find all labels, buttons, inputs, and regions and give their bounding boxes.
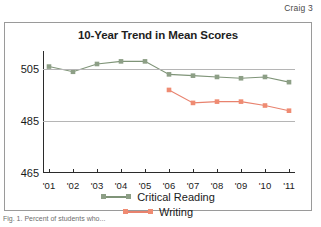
legend-label-critical-reading: Critical Reading [137, 191, 215, 203]
x-tick-label-06: '06 [163, 180, 175, 191]
x-tick-label-02: '02 [67, 180, 79, 191]
page-top-edge [0, 0, 321, 1]
page-header-running-head: Craig 3 [284, 3, 313, 13]
data-point-critical-reading-10 [287, 80, 292, 85]
chart-container: 10-Year Trend in Mean Scores 465485505 '… [4, 22, 312, 211]
data-point-critical-reading-9 [263, 75, 268, 80]
x-axis-tick-labels: '01'02'03'04'05'06'07'08'09'10'11 [43, 173, 295, 191]
x-tick-label-04: '04 [115, 180, 127, 191]
data-point-critical-reading-8 [239, 76, 244, 81]
y-tick-label-485: 485 [21, 115, 39, 127]
data-point-critical-reading-6 [191, 73, 196, 78]
x-tick-label-10: '10 [259, 180, 271, 191]
x-tick-label-09: '09 [235, 180, 247, 191]
data-point-critical-reading-3 [119, 59, 124, 64]
y-tick-label-465: 465 [21, 167, 39, 179]
data-point-critical-reading-1 [71, 69, 76, 74]
chart-legend: Critical Reading Writing [5, 191, 311, 218]
data-point-critical-reading-7 [215, 75, 220, 80]
data-point-writing-2 [215, 99, 220, 104]
x-tick-label-03: '03 [91, 180, 103, 191]
x-tick-label-08: '08 [211, 180, 223, 191]
legend-swatch-critical-reading [101, 192, 131, 202]
data-point-writing-1 [191, 101, 196, 106]
y-axis-tick-labels: 465485505 [5, 51, 39, 173]
plot-area [43, 51, 295, 173]
series-line-writing [169, 90, 289, 111]
x-tick-label-05: '05 [139, 180, 151, 191]
data-point-writing-3 [239, 99, 244, 104]
data-point-writing-4 [263, 103, 268, 108]
data-point-writing-5 [287, 108, 292, 113]
x-tick-label-07: '07 [187, 180, 199, 191]
gridline-505 [43, 69, 295, 70]
x-tick-label-01: '01 [43, 180, 55, 191]
legend-item-critical-reading[interactable]: Critical Reading [101, 191, 215, 203]
gridline-485 [43, 121, 295, 122]
y-tick-label-505: 505 [21, 63, 39, 75]
data-point-critical-reading-5 [167, 72, 172, 77]
data-point-critical-reading-4 [143, 59, 148, 64]
x-tick-label-11: '11 [283, 180, 295, 191]
data-point-writing-0 [167, 88, 172, 93]
series-line-critical-reading [49, 61, 289, 82]
figure-caption: Fig. 1. Percent of students who... [3, 215, 317, 225]
chart-title: 10-Year Trend in Mean Scores [5, 29, 311, 41]
data-point-critical-reading-2 [95, 62, 100, 67]
